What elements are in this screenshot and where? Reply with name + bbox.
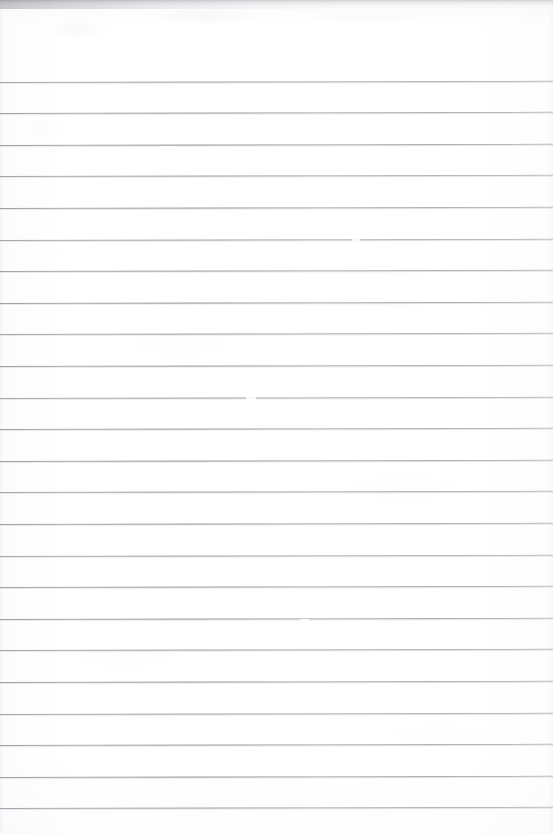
paper-sheet	[0, 0, 553, 834]
ruled-line	[0, 144, 553, 146]
ruled-line	[0, 302, 553, 304]
ruled-line	[0, 807, 553, 809]
ruled-line	[0, 428, 553, 430]
ruled-line	[0, 460, 553, 462]
ruled-line	[0, 333, 553, 335]
ruled-line	[0, 776, 553, 778]
rule-gap-artifact	[300, 619, 309, 622]
rule-gap-artifact	[160, 146, 174, 149]
rule-gap-artifact	[352, 239, 360, 242]
ruled-line	[0, 713, 553, 715]
ruled-line	[0, 365, 553, 367]
rule-gap-artifact	[246, 397, 256, 400]
rule-gap-artifact	[466, 115, 475, 118]
rule-gap-artifact	[158, 178, 168, 181]
ruled-line	[0, 586, 553, 588]
ruled-line	[0, 491, 553, 493]
ruled-line	[0, 81, 553, 83]
scanned-page	[0, 0, 553, 834]
ruled-line	[0, 270, 553, 272]
ruled-line	[0, 523, 553, 525]
ruled-line	[0, 175, 553, 177]
ruled-line	[0, 555, 553, 557]
top-edge-shadow-right	[380, 0, 553, 5]
ruled-line	[0, 649, 553, 651]
ruled-line	[0, 681, 553, 683]
ruled-line	[0, 112, 553, 114]
ruled-line	[0, 207, 553, 209]
left-edge-shading	[0, 0, 6, 834]
ruled-line	[0, 618, 553, 620]
right-edge-shading	[546, 0, 553, 834]
ruled-line	[0, 744, 553, 746]
ruled-line	[0, 397, 553, 399]
ruled-line	[0, 239, 553, 241]
